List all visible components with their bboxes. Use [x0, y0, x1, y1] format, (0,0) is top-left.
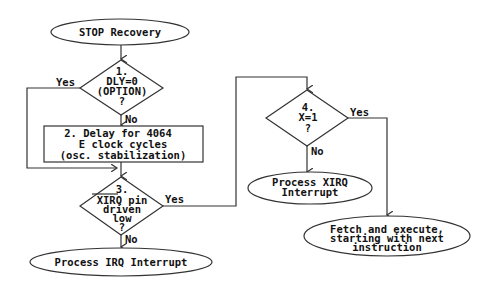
process-2-delay: 2. Delay for 4064 E clock cycles (osc. s…: [44, 126, 203, 162]
label-d4-no: No: [311, 145, 324, 157]
decision-4-x: 4. X=1 ?: [266, 90, 348, 146]
node-fetch-line-2: instruction: [352, 241, 422, 253]
decision-3-line-4: ?: [119, 221, 125, 233]
node-process-xirq: Process XIRQ Interrupt: [248, 172, 372, 204]
label-d3-no: No: [125, 233, 138, 245]
process-2-line-2: (osc. stabilization): [60, 149, 186, 161]
node-fetch-execute: Fetch and execute, starting with next in…: [304, 216, 470, 256]
decision-4-line-2: ?: [305, 122, 311, 134]
node-process-irq-text: Process IRQ Interrupt: [55, 256, 188, 268]
node-stop-recovery-text: STOP Recovery: [79, 26, 162, 38]
flowchart: Yes No Yes No Yes No STOP Recovery 1. DL…: [0, 0, 495, 292]
node-stop-recovery: STOP Recovery: [51, 19, 189, 45]
decision-1-dly: 1. DLY=0 (OPTION) ?: [80, 60, 163, 115]
decision-1-line-3: ?: [119, 95, 125, 107]
label-d1-no: No: [125, 113, 138, 125]
label-d1-yes: Yes: [56, 76, 75, 88]
edge-d4-yes: [348, 118, 387, 215]
label-d3-yes: Yes: [165, 193, 184, 205]
decision-3-xirq: 3. XIRQ pin driven low ?: [80, 177, 163, 235]
label-d4-yes: Yes: [350, 106, 369, 118]
node-process-irq: Process IRQ Interrupt: [30, 248, 212, 276]
node-process-xirq-line-1: Interrupt: [282, 186, 339, 198]
